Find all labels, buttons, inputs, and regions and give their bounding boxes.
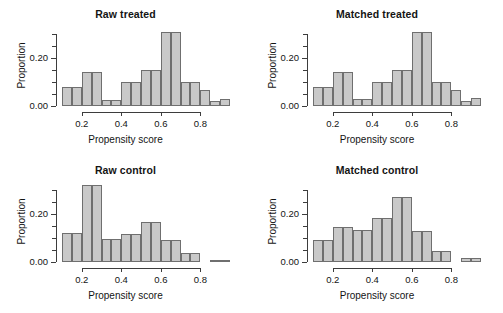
histogram-bar — [402, 197, 412, 262]
histogram-bar — [392, 70, 402, 106]
x-axis-tick-label: 0.4 — [115, 274, 128, 285]
histogram-bar — [220, 99, 230, 106]
histogram-bar — [432, 251, 442, 262]
x-axis-tick-label: 0.2 — [75, 274, 88, 285]
y-axis-tick-label: 0.20 — [269, 208, 299, 219]
x-axis-tick — [121, 112, 122, 116]
y-axis-tick-major — [51, 214, 56, 215]
histogram-bar — [210, 101, 220, 106]
y-axis-tick-minor — [303, 202, 307, 203]
histogram-bar — [362, 99, 372, 106]
y-axis-tick-major — [302, 262, 307, 263]
x-axis-tick-label: 0.4 — [366, 274, 379, 285]
histogram-bar — [151, 222, 161, 262]
x-axis-tick-label: 0.6 — [154, 118, 167, 129]
x-axis-tick-label: 0.8 — [194, 274, 207, 285]
y-axis-tick-minor — [52, 70, 56, 71]
histogram-bar — [200, 90, 210, 106]
x-axis-tick-label: 0.8 — [445, 274, 458, 285]
histogram-bar — [161, 240, 171, 262]
y-axis-tick-minor — [52, 46, 56, 47]
histogram-bar — [190, 82, 200, 106]
y-axis-tick-minor — [303, 94, 307, 95]
panel-title: Matched treated — [251, 8, 503, 20]
x-axis-tick — [200, 268, 201, 272]
histogram-bar — [102, 239, 112, 262]
plot-area — [62, 184, 230, 262]
x-axis-line — [333, 112, 452, 113]
x-axis-line — [82, 268, 201, 269]
histogram-bar — [181, 82, 191, 106]
histogram-bar — [382, 218, 392, 262]
y-axis-line — [307, 190, 308, 262]
x-axis-tick-label: 0.6 — [154, 274, 167, 285]
y-axis-label: Proportion — [16, 187, 27, 257]
histogram-bar — [382, 82, 392, 106]
x-axis-tick-label: 0.8 — [445, 118, 458, 129]
histogram-bar — [343, 227, 353, 262]
y-axis-tick-minor — [303, 82, 307, 83]
y-axis-tick-minor — [52, 34, 56, 35]
x-axis-line — [82, 112, 201, 113]
x-axis-tick — [372, 268, 373, 272]
histogram-bar — [82, 185, 92, 262]
histogram-bar — [190, 253, 200, 262]
histogram-bar — [412, 32, 422, 106]
y-axis-tick-minor — [52, 250, 56, 251]
x-axis-tick — [333, 268, 334, 272]
panel-matched-treated: Matched treated Proportion Propensity sc… — [251, 0, 503, 156]
histogram-bar — [392, 197, 402, 262]
histogram-bar — [422, 231, 432, 262]
panel-title: Raw control — [0, 164, 251, 176]
histogram-bar — [313, 240, 323, 262]
histogram-bar — [82, 72, 92, 106]
x-axis-tick — [333, 112, 334, 116]
x-axis-tick — [412, 112, 413, 116]
histogram-bar — [171, 32, 181, 106]
histogram-bar — [72, 87, 82, 106]
x-axis-label: Propensity score — [251, 290, 503, 301]
histogram-bar — [141, 70, 151, 106]
panel-matched-control: Matched control Proportion Propensity sc… — [251, 156, 503, 313]
y-axis-tick-minor — [52, 82, 56, 83]
histogram-bar — [111, 239, 121, 262]
bars-group — [313, 28, 481, 106]
y-axis-tick-label: 0.20 — [18, 52, 48, 63]
y-axis-label: Proportion — [267, 187, 278, 257]
histogram-bar — [461, 101, 471, 106]
x-axis-tick-label: 0.2 — [326, 118, 339, 129]
histogram-bar — [92, 185, 102, 262]
x-axis-tick-label: 0.6 — [405, 118, 418, 129]
y-axis-tick-major — [302, 106, 307, 107]
y-axis-tick-label: 0.20 — [269, 52, 299, 63]
histogram-bar — [362, 230, 372, 262]
x-axis-tick — [200, 112, 201, 116]
histogram-bar — [161, 32, 171, 106]
histogram-bar — [121, 82, 131, 106]
x-axis-label: Propensity score — [0, 290, 251, 301]
histogram-bar — [62, 87, 72, 106]
panel-raw-control: Raw control Proportion Propensity score … — [0, 156, 251, 313]
y-axis-tick-major — [302, 214, 307, 215]
histogram-bar — [412, 231, 422, 262]
y-axis-label: Proportion — [267, 31, 278, 101]
plot-area — [313, 184, 481, 262]
y-axis-line — [56, 190, 57, 262]
histogram-bar — [111, 100, 121, 106]
histogram-bar — [372, 82, 382, 106]
y-axis-line — [307, 34, 308, 106]
histogram-bar — [121, 234, 131, 262]
plot-area — [62, 28, 230, 106]
x-axis-tick — [161, 112, 162, 116]
figure-histogram-grid: Raw treated Proportion Propensity score … — [0, 0, 503, 313]
histogram-bar — [451, 90, 461, 106]
y-axis-line — [56, 34, 57, 106]
x-axis-tick — [372, 112, 373, 116]
x-axis-tick-label: 0.4 — [366, 118, 379, 129]
histogram-bar — [323, 87, 333, 106]
panel-title: Raw treated — [0, 8, 251, 20]
histogram-bar — [72, 233, 82, 262]
y-axis-tick-major — [302, 58, 307, 59]
y-axis-tick-major — [51, 58, 56, 59]
y-axis-tick-minor — [52, 94, 56, 95]
